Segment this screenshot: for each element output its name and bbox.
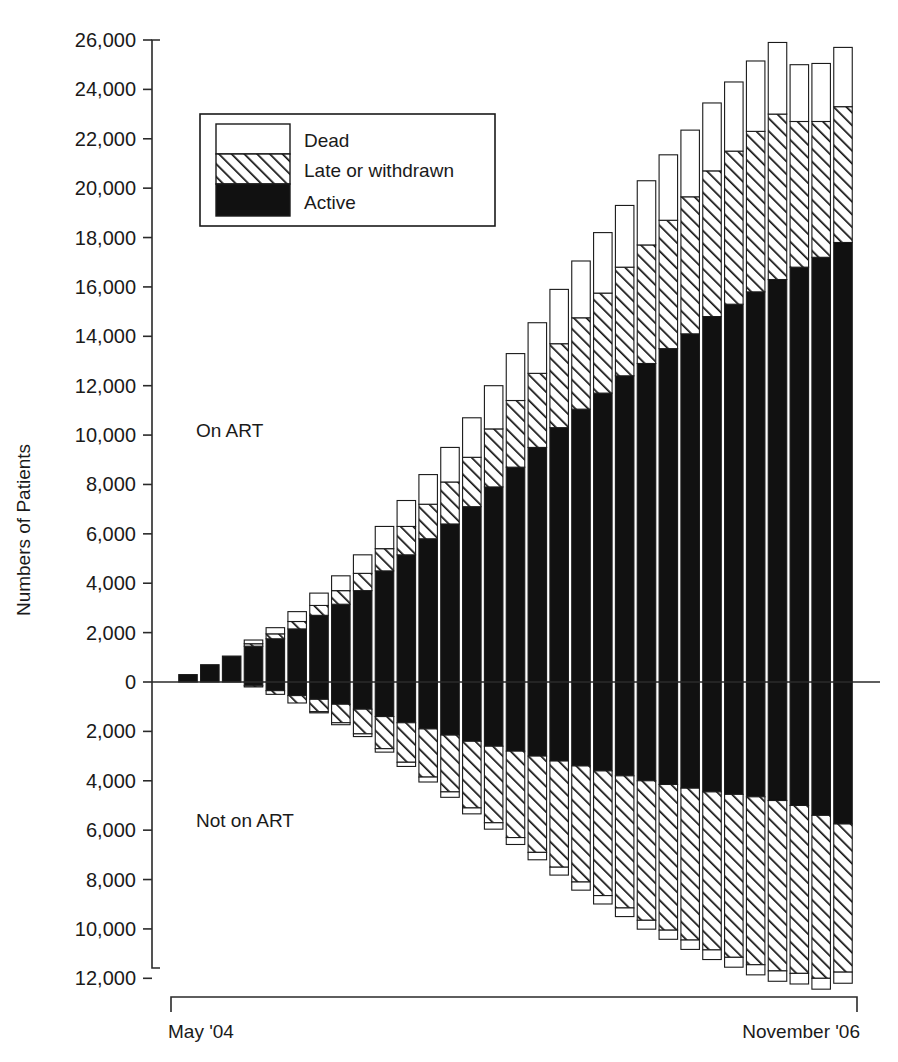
bar-segment-active <box>681 334 700 682</box>
y-axis-tick-label: 24,000 <box>75 78 136 100</box>
bar-segment-dead <box>266 628 285 634</box>
bar-segment-active <box>528 447 547 682</box>
bar-segment-dead <box>637 920 656 929</box>
bar-segment-late-or-withdrawn <box>681 788 700 940</box>
y-axis-title: Numbers of Patients <box>13 444 34 616</box>
y-axis-tick-label: 4,000 <box>86 572 136 594</box>
bar-segment-dead <box>244 640 263 644</box>
bar-segment-active <box>266 639 285 682</box>
y-axis-tick-label: 2,000 <box>86 622 136 644</box>
legend-swatch-late-or-withdrawn <box>216 154 290 184</box>
bar-segment-active <box>288 682 307 696</box>
bar-segment-active <box>244 646 263 682</box>
bar-segment-late-or-withdrawn <box>812 121 831 257</box>
bar-segment-active <box>419 682 438 729</box>
bar-segment-late-or-withdrawn <box>288 622 307 629</box>
bar-segment-late-or-withdrawn <box>266 634 285 639</box>
bar-segment-dead <box>550 867 569 875</box>
legend-swatch-dead <box>216 124 290 154</box>
bar-segment-dead <box>332 576 351 591</box>
bar-segment-late-or-withdrawn <box>353 709 372 734</box>
annotation-not-on-art: Not on ART <box>196 810 294 831</box>
bar-segment-active <box>353 682 372 709</box>
bar-segment-late-or-withdrawn <box>244 686 263 687</box>
bar-segment-late-or-withdrawn <box>441 735 460 792</box>
bar-segment-active <box>594 393 613 682</box>
bar-segment-dead <box>397 501 416 527</box>
bar-segment-late-or-withdrawn <box>615 776 634 908</box>
legend-label-late-or-withdrawn: Late or withdrawn <box>304 160 454 181</box>
bar-segment-active <box>637 363 656 682</box>
bar-segment-late-or-withdrawn <box>790 805 809 973</box>
bar-segment-late-or-withdrawn <box>397 723 416 763</box>
chart-figure: 02,0004,0006,0008,00010,00012,00014,0001… <box>0 0 898 1062</box>
bar-segment-late-or-withdrawn <box>288 696 307 703</box>
bar-segment-active <box>506 467 525 682</box>
bar-segment-active <box>397 555 416 682</box>
bar-segment-late-or-withdrawn <box>484 746 503 823</box>
bar-segment-late-or-withdrawn <box>353 573 372 590</box>
bar-segment-active <box>463 682 482 741</box>
bar-segment-active <box>703 317 722 682</box>
y-axis-tick-label: 8,000 <box>86 473 136 495</box>
bar-segment-active <box>463 507 482 682</box>
bar-segment-dead <box>834 972 853 983</box>
bar-segment-late-or-withdrawn <box>703 171 722 317</box>
y-axis-tick-label: 12,000 <box>75 967 136 989</box>
bar-segment-active <box>310 682 329 699</box>
bar-segment-active <box>484 487 503 682</box>
bar-segment-late-or-withdrawn <box>834 824 853 972</box>
bar-segment-late-or-withdrawn <box>659 784 678 930</box>
bar-segment-dead <box>572 882 591 890</box>
bar-segment-late-or-withdrawn <box>703 792 722 950</box>
bar-segment-late-or-withdrawn <box>310 699 329 711</box>
y-axis-tick-label: 10,000 <box>75 424 136 446</box>
bar-segment-dead <box>484 386 503 429</box>
y-axis-tick-label: 18,000 <box>75 227 136 249</box>
bar-segment-active <box>790 267 809 682</box>
bar-segment-late-or-withdrawn <box>572 318 591 409</box>
bar-segment-active <box>768 280 787 682</box>
bar-segment-late-or-withdrawn <box>834 107 853 243</box>
bar-segment-late-or-withdrawn <box>681 197 700 334</box>
bar-segment-active <box>266 682 285 691</box>
bar-segment-dead <box>506 838 525 845</box>
bar-segment-dead <box>615 908 634 917</box>
bar-segment-dead <box>659 930 678 939</box>
bar-segment-late-or-withdrawn <box>419 729 438 777</box>
bar-segment-dead <box>725 82 744 151</box>
bar-segment-late-or-withdrawn <box>528 373 547 447</box>
bar-segment-active <box>703 682 722 792</box>
bar-segment-late-or-withdrawn <box>746 797 765 965</box>
bar-segment-active <box>746 682 765 797</box>
bar-segment-late-or-withdrawn <box>332 704 351 723</box>
bar-segment-active <box>746 292 765 682</box>
bar-segment-dead <box>768 971 787 981</box>
bar-segment-late-or-withdrawn <box>310 605 329 615</box>
bar-segment-active <box>484 682 503 746</box>
chart-legend: Dead Late or withdrawn Active <box>200 114 495 226</box>
bar-segment-active <box>419 539 438 682</box>
bar-segment-active <box>615 376 634 682</box>
bar-segment-dead <box>310 712 329 713</box>
bar-segment-dead <box>353 555 372 574</box>
bar-segment-active <box>332 604 351 682</box>
bar-segment-active <box>375 571 394 682</box>
bar-segment-dead <box>594 896 613 904</box>
bar-segment-active <box>441 682 460 735</box>
y-axis-tick-label: 0 <box>125 671 136 693</box>
bar-segment-active <box>594 682 613 771</box>
bar-segment-active <box>353 591 372 682</box>
legend-label-active: Active <box>304 192 356 213</box>
bar-segment-late-or-withdrawn <box>790 121 809 267</box>
bar-segment-dead <box>812 978 831 989</box>
legend-swatch-active <box>216 184 290 216</box>
bar-segment-active <box>288 629 307 682</box>
bar-segment-late-or-withdrawn <box>550 761 569 867</box>
bar-segment-dead <box>659 155 678 220</box>
bar-segment-late-or-withdrawn <box>397 526 416 554</box>
y-axis-tick-label: 14,000 <box>75 325 136 347</box>
y-axis: 02,0004,0006,0008,00010,00012,00014,0001… <box>75 29 160 989</box>
bar-segment-active <box>768 682 787 801</box>
y-axis-tick-label: 2,000 <box>86 720 136 742</box>
